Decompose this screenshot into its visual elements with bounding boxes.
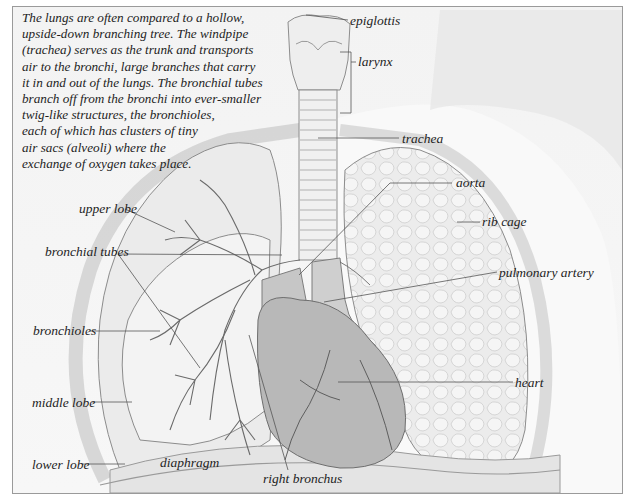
trachea-shape <box>299 90 337 260</box>
label-trachea: trachea <box>402 132 443 146</box>
label-right-bronchus: right bronchus <box>263 472 342 486</box>
label-pulmonary-artery: pulmonary artery <box>499 266 594 280</box>
label-aorta: aorta <box>456 176 485 190</box>
intro-line: it in and out of the lungs. The bronchia… <box>22 75 272 91</box>
label-epiglottis: epiglottis <box>350 14 400 28</box>
intro-line: The lungs are often compared to a hollow… <box>22 10 272 26</box>
label-rib-cage: rib cage <box>482 215 527 229</box>
label-larynx: larynx <box>358 55 393 69</box>
intro-line: exchange of oxygen takes place. <box>22 156 272 172</box>
label-middle-lobe: middle lobe <box>32 396 95 410</box>
label-bronchial-tubes: bronchial tubes <box>45 245 129 259</box>
label-diaphragm: diaphragm <box>160 456 219 470</box>
intro-line: branch off from the bronchi into ever-sm… <box>22 91 272 107</box>
larynx-shape <box>288 15 350 90</box>
intro-line: upside-down branching tree. The windpipe <box>22 26 272 42</box>
intro-line: air sacs (alveoli) where the <box>22 140 272 156</box>
intro-line: twig-like structures, the bronchioles, <box>22 107 272 123</box>
label-lower-lobe: lower lobe <box>32 458 89 472</box>
intro-line: air to the bronchi, large branches that … <box>22 59 272 75</box>
label-upper-lobe: upper lobe <box>79 202 137 216</box>
intro-line: (trachea) serves as the trunk and transp… <box>22 42 272 58</box>
label-heart: heart <box>515 376 544 390</box>
intro-paragraph: The lungs are often compared to a hollow… <box>22 10 272 172</box>
label-bronchioles: bronchioles <box>33 324 96 338</box>
intro-line: each of which has clusters of tiny <box>22 123 272 139</box>
